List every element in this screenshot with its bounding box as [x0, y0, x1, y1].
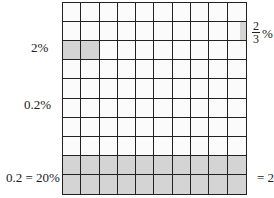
grid-cell — [118, 41, 136, 60]
grid-cell — [81, 79, 99, 98]
grid-cell — [118, 60, 136, 79]
fraction-percent-sign: % — [262, 26, 273, 42]
grid-cell — [118, 118, 136, 137]
grid-cell — [136, 79, 154, 98]
grid-cell — [136, 22, 154, 41]
grid-cell — [63, 137, 81, 156]
grid-cell — [173, 99, 191, 118]
grid-cell — [81, 41, 99, 60]
grid-cell — [154, 41, 172, 60]
grid-cell — [81, 118, 99, 137]
grid-cell — [63, 22, 81, 41]
label-0-2-equals-20-percent: 0.2 = 20% — [6, 170, 60, 186]
grid-cell — [118, 22, 136, 41]
grid-cell — [136, 3, 154, 22]
grid-cell — [81, 137, 99, 156]
grid-cell — [173, 156, 191, 175]
grid-cell — [209, 60, 227, 79]
grid-cell — [154, 156, 172, 175]
grid-cell — [100, 60, 118, 79]
grid-cell — [154, 60, 172, 79]
grid-cell — [118, 99, 136, 118]
grid-cell — [173, 60, 191, 79]
grid-cell — [81, 175, 99, 194]
grid-cell — [118, 79, 136, 98]
partial-shade — [240, 22, 246, 40]
grid-cell — [228, 137, 246, 156]
grid-cell — [191, 118, 209, 137]
grid-cell — [209, 3, 227, 22]
grid-cell — [63, 3, 81, 22]
grid-cell — [100, 41, 118, 60]
grid-cell — [100, 3, 118, 22]
grid-cell — [191, 3, 209, 22]
grid-cell — [209, 118, 227, 137]
grid-cell — [191, 137, 209, 156]
grid-cell — [118, 156, 136, 175]
grid-cell — [154, 22, 172, 41]
fraction-two-thirds: 2 3 — [252, 20, 260, 45]
grid-cell — [63, 41, 81, 60]
grid-cell — [63, 79, 81, 98]
label-0-2-percent: 0.2% — [24, 97, 51, 113]
grid-cell — [209, 22, 227, 41]
grid-cell — [154, 3, 172, 22]
grid-cell — [173, 3, 191, 22]
grid-cell — [100, 79, 118, 98]
grid-cell — [173, 41, 191, 60]
grid-cell — [228, 156, 246, 175]
grid-cell — [191, 41, 209, 60]
grid-cell — [63, 175, 81, 194]
grid-cell — [63, 60, 81, 79]
grid-cell — [209, 41, 227, 60]
grid-cell — [173, 22, 191, 41]
grid-cell — [81, 60, 99, 79]
grid-cell — [100, 175, 118, 194]
label-2-percent: 2% — [31, 40, 48, 56]
grid-cell — [118, 3, 136, 22]
grid-cell — [191, 175, 209, 194]
grid-cell — [228, 79, 246, 98]
grid-cell — [81, 99, 99, 118]
grid-cell — [118, 137, 136, 156]
grid-cell — [228, 118, 246, 137]
grid-cell — [136, 137, 154, 156]
grid-cell — [228, 99, 246, 118]
grid-cell — [228, 3, 246, 22]
grid-cell — [136, 41, 154, 60]
grid-cell — [228, 22, 246, 41]
grid-cell — [81, 3, 99, 22]
grid-cell — [136, 156, 154, 175]
grid-cell — [154, 175, 172, 194]
grid-cell — [191, 22, 209, 41]
grid-cell — [136, 99, 154, 118]
grid-cell — [63, 156, 81, 175]
grid-cell — [100, 118, 118, 137]
grid-cell — [154, 137, 172, 156]
grid-cell — [136, 60, 154, 79]
grid-cell — [63, 118, 81, 137]
grid-cell — [100, 99, 118, 118]
fraction-denominator: 3 — [252, 33, 260, 45]
grid-cell — [173, 79, 191, 98]
grid-cell — [154, 99, 172, 118]
grid-cell — [118, 175, 136, 194]
grid-cell — [100, 137, 118, 156]
grid-cell — [63, 99, 81, 118]
grid-cell — [154, 118, 172, 137]
grid-cell — [100, 156, 118, 175]
grid-cell — [228, 41, 246, 60]
grid-cell — [154, 79, 172, 98]
hundred-grid — [62, 2, 247, 195]
label-equals-20: = 20 — [257, 170, 274, 186]
grid-cell — [191, 79, 209, 98]
grid-cell — [81, 22, 99, 41]
grid-cell — [136, 175, 154, 194]
grid-cell — [209, 175, 227, 194]
grid-cell — [173, 137, 191, 156]
grid-cell — [209, 79, 227, 98]
grid-cell — [100, 22, 118, 41]
grid-cell — [228, 60, 246, 79]
grid-cell — [209, 99, 227, 118]
grid-cell — [136, 118, 154, 137]
